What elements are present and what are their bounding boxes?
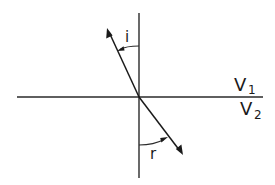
refraction-diagram: i r V 1 V 2 (0, 0, 275, 185)
angle-r-arc (139, 137, 168, 145)
refracted-ray (139, 97, 183, 155)
angle-i-arc (117, 46, 139, 51)
angle-i-arrowhead-icon (117, 46, 125, 51)
incident-ray (106, 28, 139, 97)
angle-i-label: i (125, 28, 129, 46)
upper-medium-label: V 1 (234, 74, 256, 97)
angle-r-arrowhead-icon (160, 137, 168, 143)
lower-medium-label: V 2 (240, 98, 262, 122)
angle-r-label: r (150, 145, 157, 163)
